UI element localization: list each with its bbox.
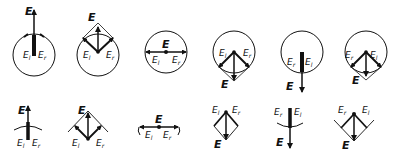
svg-text:El: El: [294, 107, 302, 118]
svg-text:Er: Er: [338, 105, 347, 116]
svg-text:E: E: [18, 104, 26, 117]
svg-text:El: El: [23, 50, 31, 61]
svg-text:E: E: [78, 104, 86, 117]
svg-text:El: El: [370, 50, 378, 61]
svg-text:El: El: [219, 48, 227, 59]
svg-text:Er: Er: [38, 50, 47, 61]
svg-text:E: E: [214, 138, 222, 151]
svg-text:E: E: [276, 136, 284, 149]
panel-bottom-5: E Er El: [274, 107, 303, 149]
panel-top-1: E El Er: [13, 5, 55, 76]
polarization-diagram: E El Er E El Er E El Er E El Er: [0, 0, 396, 158]
svg-text:Er: Er: [232, 105, 241, 116]
panel-top-2: E El Er: [77, 11, 119, 76]
svg-text:Er: Er: [243, 48, 252, 59]
panel-bottom-2: E El Er: [68, 104, 108, 149]
svg-text:El: El: [72, 138, 80, 149]
panel-bottom-1: E El Er: [14, 104, 42, 149]
svg-text:El: El: [152, 55, 160, 66]
panel-top-6: E Er El: [345, 31, 387, 87]
svg-text:E: E: [155, 113, 163, 126]
panel-bottom-6: E Er El: [334, 105, 374, 152]
panel-top-3: E El Er: [145, 31, 187, 73]
panel-top-4: E El Er: [213, 31, 255, 91]
svg-text:El: El: [212, 105, 220, 116]
svg-text:El: El: [17, 138, 25, 149]
svg-text:E: E: [221, 78, 229, 91]
svg-text:El: El: [305, 57, 313, 68]
svg-text:Er: Er: [287, 57, 296, 68]
svg-text:Er: Er: [172, 55, 181, 66]
svg-text:Er: Er: [163, 130, 172, 141]
svg-text:El: El: [362, 105, 370, 116]
label-E: E: [25, 5, 33, 18]
svg-text:El: El: [83, 50, 91, 61]
svg-text:E: E: [286, 80, 294, 93]
svg-text:El: El: [145, 130, 153, 141]
panel-bottom-3: E El Er: [138, 113, 180, 141]
svg-text:Er: Er: [32, 138, 41, 149]
panel-top-5: E Er El: [281, 31, 323, 93]
svg-text:Er: Er: [274, 107, 283, 118]
svg-text:Er: Er: [96, 138, 105, 149]
svg-text:Er: Er: [345, 50, 354, 61]
panel-bottom-4: E El Er: [212, 105, 241, 151]
svg-text:E: E: [342, 139, 350, 152]
svg-text:E: E: [88, 11, 96, 24]
svg-text:E: E: [162, 38, 170, 51]
svg-text:E: E: [352, 74, 360, 87]
svg-text:Er: Er: [106, 50, 115, 61]
